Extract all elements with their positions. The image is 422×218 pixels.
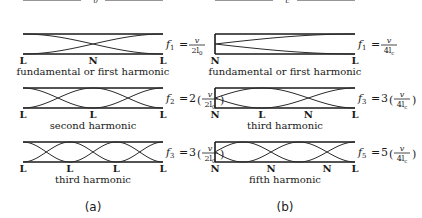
node-label: N	[304, 109, 313, 120]
harmonic-multiplier: 2	[189, 92, 196, 105]
loop-label: L	[19, 163, 26, 174]
panel-a: l0LNLfundamental or first harmonicf1=v2l…	[17, 0, 225, 214]
loop-label: L	[159, 109, 166, 120]
paren-close: )	[220, 148, 224, 161]
harmonic-multiplier: 3	[189, 146, 196, 159]
harmonic-caption: fundamental or first harmonic	[209, 66, 362, 77]
harmonic-caption: third harmonic	[247, 120, 323, 131]
paren-open: (	[197, 94, 201, 107]
loop-label: L	[258, 109, 265, 120]
fraction-denominator: 4lc	[384, 46, 395, 56]
harmonic-multiplier: 3	[381, 92, 388, 105]
fraction-numerator: v	[387, 36, 392, 45]
frequency-equation: f5=5(v4lc)	[357, 144, 416, 164]
fraction-numerator: v	[400, 90, 405, 99]
fraction-numerator: v	[208, 144, 213, 153]
standing-waves-diagram: l0LNLfundamental or first harmonicf1=v2l…	[0, 0, 422, 218]
harmonic-row-2: LLLsecond harmonicf2=2(v2l0)	[19, 88, 224, 131]
frequency-symbol: f2	[165, 92, 175, 106]
loop-label: L	[66, 163, 73, 174]
frequency-equation: f1=v4lc	[357, 36, 397, 56]
harmonic-row-1: LNLfundamental or first harmonicf1=v2l0	[17, 34, 205, 77]
node-label: N	[210, 163, 219, 174]
node-label: N	[210, 109, 219, 120]
wave-envelope-upper	[23, 88, 163, 108]
length-dimension: l0	[23, 0, 163, 5]
panel-b: lcNLfundamental or first harmonicf1=v4lc…	[209, 0, 417, 214]
length-dimension: lc	[215, 0, 355, 5]
loop-label: L	[351, 163, 358, 174]
loop-label: L	[351, 55, 358, 66]
panel-label: (a)	[85, 200, 102, 214]
node-label: N	[210, 55, 219, 66]
equals-sign: =	[179, 92, 188, 105]
loop-label: L	[19, 109, 26, 120]
node-label: N	[322, 163, 331, 174]
wave-envelope-lower	[23, 88, 163, 108]
paren-close: )	[412, 148, 416, 161]
loop-label: L	[159, 163, 166, 174]
loop-label: L	[159, 55, 166, 66]
length-label: l0	[90, 0, 99, 5]
wave-envelope-lower	[23, 142, 163, 162]
frequency-equation: f3=3(v4lc)	[357, 90, 416, 110]
fraction-numerator: v	[208, 90, 213, 99]
paren-open: (	[389, 94, 393, 107]
panel-label: (b)	[277, 200, 294, 214]
loop-label: L	[19, 55, 26, 66]
paren-open: (	[389, 148, 393, 161]
paren-close: )	[412, 94, 416, 107]
harmonic-row-5: NNNLfifth harmonicf5=5(v4lc)	[210, 142, 416, 185]
harmonic-caption: third harmonic	[55, 174, 131, 185]
loop-label: L	[351, 109, 358, 120]
harmonic-caption: fifth harmonic	[249, 174, 321, 185]
harmonic-caption: fundamental or first harmonic	[17, 66, 170, 77]
equals-sign: =	[179, 146, 188, 159]
fraction-numerator: v	[195, 36, 200, 45]
frequency-symbol: f1	[165, 38, 175, 52]
harmonic-row-1: NLfundamental or first harmonicf1=v4lc	[209, 34, 397, 77]
equals-sign: =	[179, 38, 188, 51]
frequency-equation: f1=v2l0	[165, 36, 205, 56]
frequency-symbol: f3	[357, 92, 367, 106]
wave-envelope-lower	[215, 44, 355, 54]
frequency-symbol: f1	[357, 38, 367, 52]
fraction-denominator: 4lc	[397, 154, 408, 164]
length-label: lc	[282, 0, 290, 5]
fraction-denominator: 4lc	[397, 100, 408, 110]
paren-open: (	[197, 148, 201, 161]
fraction-numerator: v	[400, 144, 405, 153]
harmonic-multiplier: 5	[381, 146, 388, 159]
frequency-symbol: f3	[165, 146, 175, 160]
wave-envelope-upper	[215, 34, 355, 44]
node-label: N	[266, 163, 275, 174]
equals-sign: =	[371, 92, 380, 105]
harmonic-row-3: LLLLthird harmonicf3=3(v2l0)	[19, 142, 224, 185]
frequency-symbol: f5	[357, 146, 367, 160]
node-label: N	[88, 55, 97, 66]
loop-label: L	[89, 109, 96, 120]
wave-envelope-lower	[23, 34, 163, 54]
harmonic-row-3: NLNLthird harmonicf3=3(v4lc)	[210, 88, 416, 131]
harmonic-caption: second harmonic	[50, 120, 137, 131]
equals-sign: =	[371, 38, 380, 51]
loop-label: L	[113, 163, 120, 174]
fraction-denominator: 2l0	[191, 46, 203, 56]
equals-sign: =	[371, 146, 380, 159]
